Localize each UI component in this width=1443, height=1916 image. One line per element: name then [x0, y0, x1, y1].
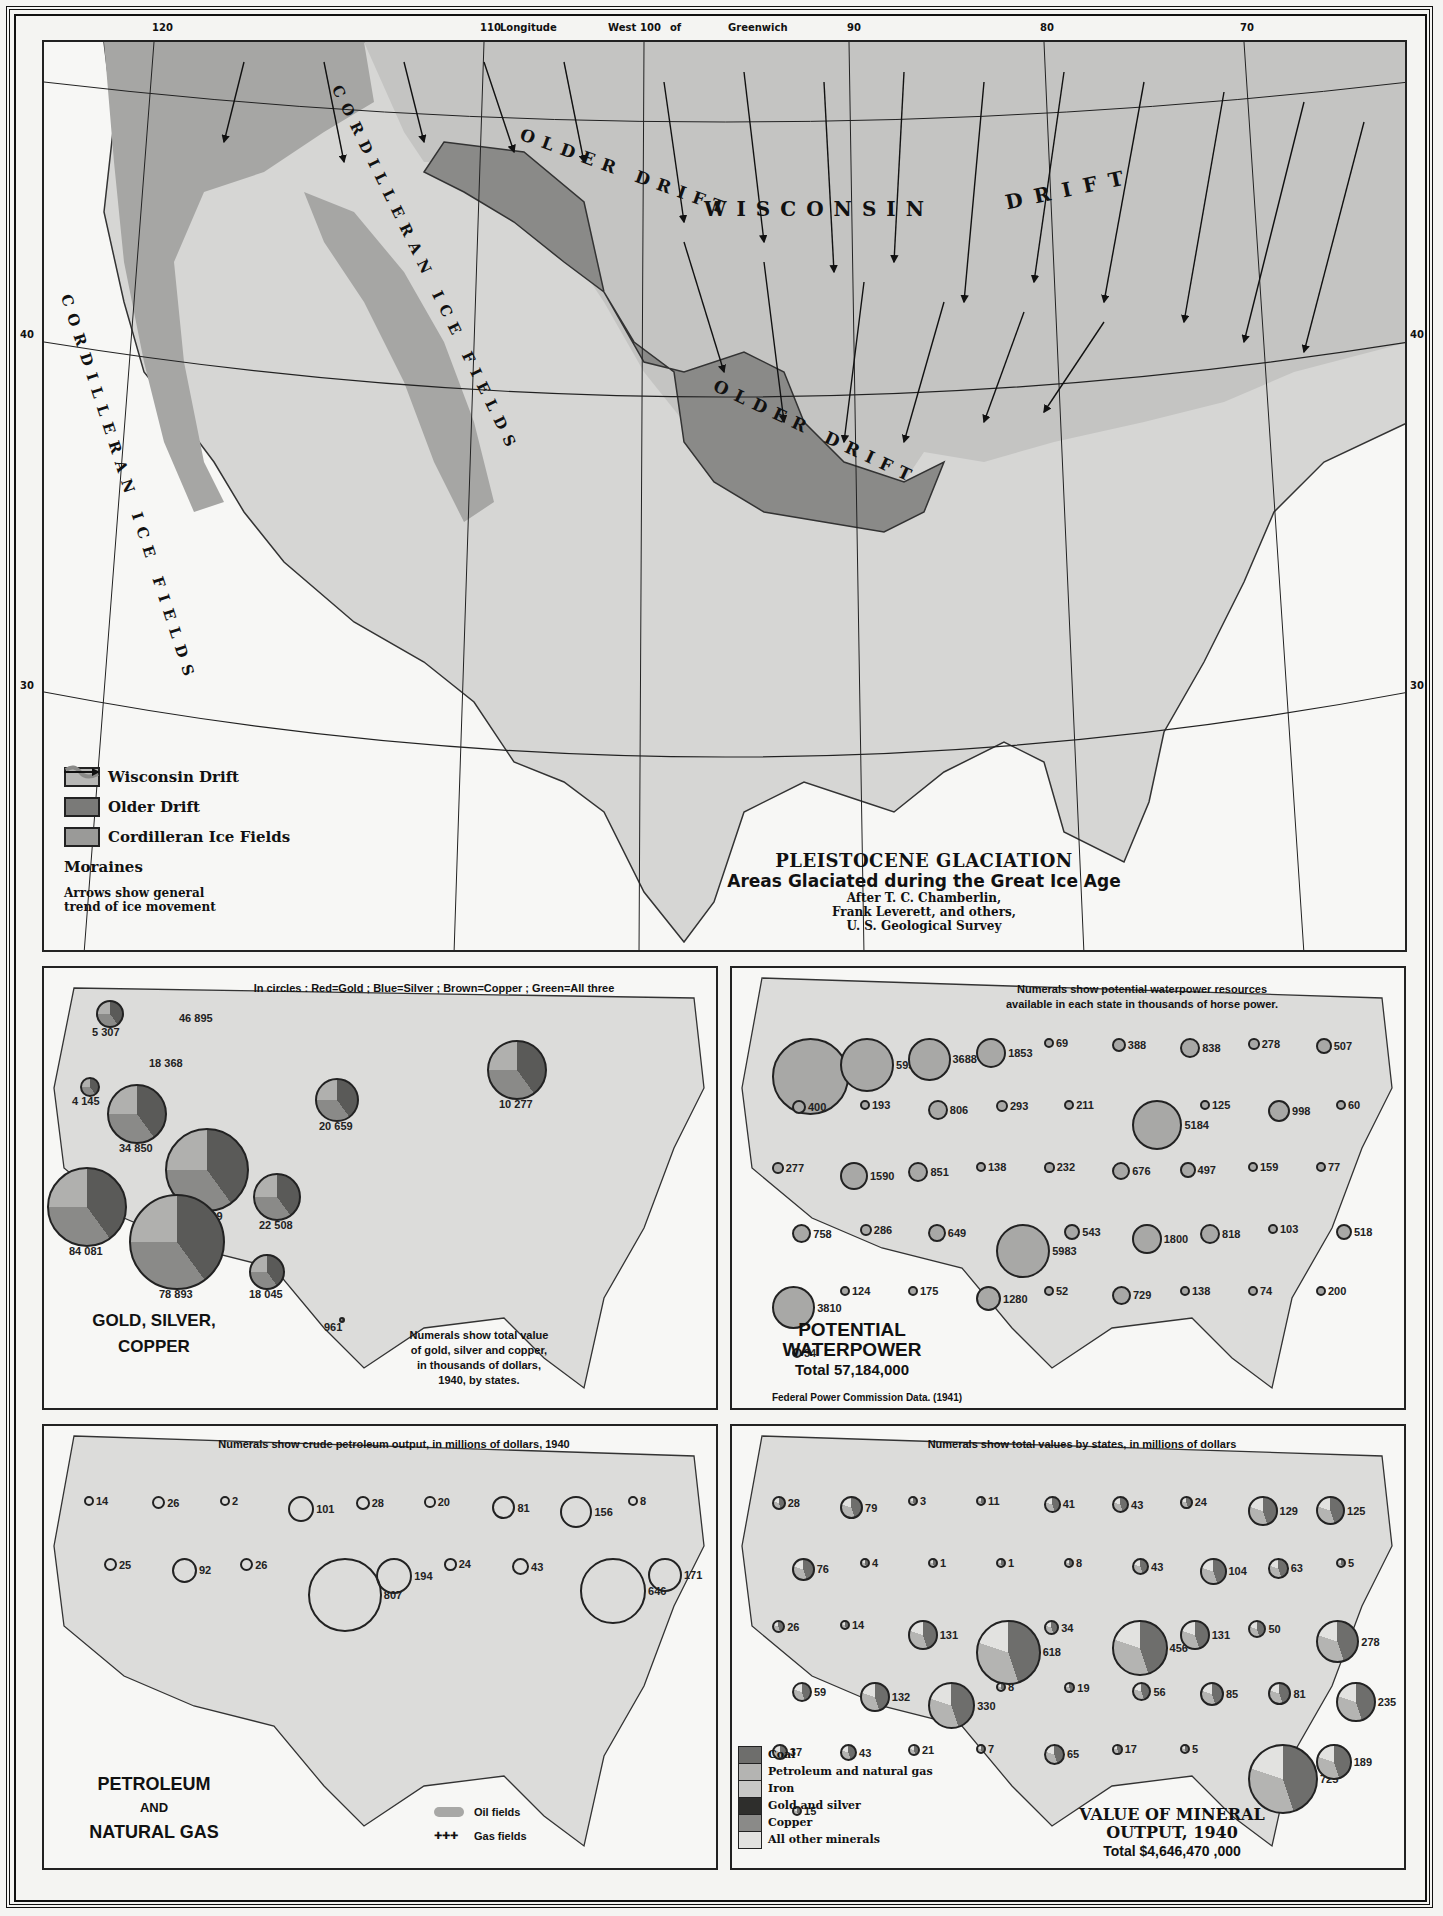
- state-value: 175: [920, 1285, 938, 1297]
- state-value: 24: [1195, 1496, 1207, 1508]
- state-value: 998: [1292, 1105, 1310, 1117]
- value-circle: [1180, 1620, 1210, 1650]
- petroleum-map: Numerals show crude petroleum output, in…: [42, 1424, 718, 1870]
- state-value: 14: [96, 1495, 108, 1507]
- value-circle: [1200, 1100, 1210, 1110]
- longitude-tick: of: [670, 22, 681, 33]
- mineral-legend-item: Gold and silver: [738, 1797, 933, 1814]
- pie-marker: [80, 1077, 100, 1097]
- value-circle: [1248, 1162, 1258, 1172]
- value-circle: [1336, 1558, 1346, 1568]
- state-value: 56: [1153, 1686, 1165, 1698]
- legend-swatch: [738, 1831, 762, 1849]
- value-circle: [1112, 1286, 1131, 1305]
- value-circle: [1316, 1162, 1326, 1172]
- value-circle: [840, 1162, 868, 1190]
- state-value: 5 307: [92, 1026, 120, 1038]
- map-label-wisconsin: WISCONSIN: [704, 197, 934, 221]
- mineral-legend-item: Coal: [738, 1746, 933, 1763]
- state-value: 277: [786, 1162, 804, 1174]
- state-value: 14: [852, 1619, 864, 1631]
- value-circle: [1316, 1286, 1326, 1296]
- value-circle: [1112, 1496, 1129, 1513]
- pie-marker: [129, 1194, 225, 1290]
- value-circle: [792, 1682, 812, 1702]
- value-circle: [976, 1162, 986, 1172]
- state-value: 85: [1226, 1688, 1238, 1700]
- state-value: 729: [1133, 1289, 1151, 1301]
- latitude-tick-left: 40: [20, 329, 34, 340]
- value-circle: [1180, 1162, 1196, 1178]
- state-value: 19: [1077, 1682, 1089, 1694]
- value-circle: [1180, 1496, 1193, 1509]
- mineral-legend-item: Copper: [738, 1814, 933, 1831]
- state-value: 34 850: [119, 1142, 153, 1154]
- glaciation-title-block: PLEISTOCENE GLACIATION Areas Glaciated d…: [704, 850, 1144, 933]
- state-value: 8: [1008, 1681, 1014, 1693]
- value-circle: [1112, 1620, 1168, 1676]
- credit-line: U. S. Geological Survey: [704, 919, 1144, 933]
- gold-silver-copper-map: In circles : Red=Gold ; Blue=Silver ; Br…: [42, 966, 718, 1410]
- state-value: 26: [167, 1497, 179, 1509]
- value-circle: [976, 1496, 986, 1506]
- value-circle: [1064, 1558, 1074, 1568]
- state-value: 92: [199, 1564, 211, 1576]
- state-value: 8: [640, 1495, 646, 1507]
- pie-marker: [249, 1254, 285, 1290]
- state-value: 838: [1202, 1042, 1220, 1054]
- legend-swatch: [738, 1814, 762, 1832]
- value-circle: [1200, 1682, 1224, 1706]
- legend-item-arrows: Arrows show general trend of ice movemen…: [64, 882, 290, 918]
- value-circle: [928, 1100, 948, 1120]
- glaciation-subtitle: Areas Glaciated during the Great Ice Age: [704, 871, 1144, 891]
- cordilleran-swatch: [64, 827, 100, 847]
- state-value: 1800: [1164, 1233, 1188, 1245]
- gas-field-icon: ✚✚✚: [434, 1832, 464, 1840]
- state-value: 84 081: [69, 1245, 103, 1257]
- state-value: 5: [1192, 1743, 1198, 1755]
- value-circle: [928, 1224, 946, 1242]
- value-circle: [220, 1496, 230, 1506]
- value-circle: [84, 1496, 94, 1506]
- state-value: 59: [814, 1686, 826, 1698]
- state-value: 5983: [1052, 1245, 1076, 1257]
- longitude-tick: West: [608, 22, 636, 33]
- state-value: 4 145: [72, 1095, 100, 1107]
- state-value: 104: [1229, 1565, 1247, 1577]
- state-value: 60: [1348, 1099, 1360, 1111]
- longitude-tick: 100: [640, 22, 661, 33]
- state-value: 26: [255, 1559, 267, 1571]
- state-value: 286: [874, 1224, 892, 1236]
- value-circle: [308, 1558, 382, 1632]
- mineral-legend-item: Iron: [738, 1780, 933, 1797]
- mineral-output-map: Numerals show total values by states, in…: [730, 1424, 1406, 1870]
- state-value: 293: [1010, 1100, 1028, 1112]
- pie-marker: [107, 1084, 167, 1144]
- value-circle: [1336, 1682, 1376, 1722]
- state-value: 1590: [870, 1170, 894, 1182]
- state-value: 138: [1192, 1285, 1210, 1297]
- gsc-title: GOLD, SILVER, COPPER: [74, 1308, 234, 1360]
- value-circle: [512, 1558, 529, 1575]
- state-value: 125: [1347, 1505, 1365, 1517]
- state-value: 63: [1291, 1562, 1303, 1574]
- value-circle: [860, 1558, 870, 1568]
- state-value: 7: [988, 1743, 994, 1755]
- state-value: 26: [787, 1621, 799, 1633]
- state-value: 4: [872, 1557, 878, 1569]
- value-circle: [1248, 1744, 1318, 1814]
- state-value: 194: [414, 1570, 432, 1582]
- state-value: 124: [852, 1285, 870, 1297]
- value-circle: [772, 1162, 784, 1174]
- value-circle: [628, 1496, 638, 1506]
- value-circle: [976, 1286, 1001, 1311]
- state-value: 507: [1334, 1040, 1352, 1052]
- pie-marker: [315, 1078, 359, 1122]
- mineral-legend-item: All other minerals: [738, 1831, 933, 1848]
- state-value: 76: [817, 1563, 829, 1575]
- state-value: 101: [316, 1503, 334, 1515]
- value-circle: [860, 1682, 890, 1712]
- value-circle: [860, 1100, 870, 1110]
- state-value: 1: [1008, 1557, 1014, 1569]
- mineral-legend: CoalPetroleum and natural gasIronGold an…: [738, 1746, 933, 1848]
